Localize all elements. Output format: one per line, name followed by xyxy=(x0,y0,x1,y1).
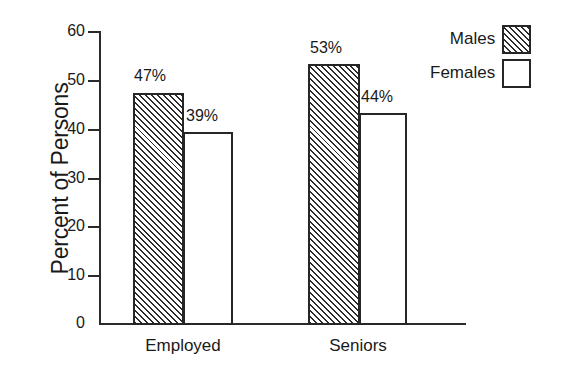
y-tick-30 xyxy=(88,178,99,180)
legend-item-males: Males xyxy=(430,22,531,56)
legend-swatch-males-hatched-icon xyxy=(502,25,531,54)
bar-value-seniors-males: 53% xyxy=(310,40,342,56)
legend-label-males: Males xyxy=(450,29,495,49)
bar-employed-females xyxy=(183,132,233,325)
y-tick-label-40: 40 xyxy=(45,121,85,137)
legend-item-females: Females xyxy=(430,56,531,90)
y-tick-40 xyxy=(88,129,99,131)
bar-seniors-males xyxy=(308,64,360,325)
y-tick-20 xyxy=(88,226,99,228)
y-tick-label-10: 10 xyxy=(45,267,85,283)
bar-value-seniors-females: 44% xyxy=(361,89,393,105)
bar-seniors-females xyxy=(359,113,407,325)
y-tick-label-50: 50 xyxy=(45,72,85,88)
y-tick-label-60: 60 xyxy=(45,23,85,39)
x-category-label-seniors: Seniors xyxy=(288,336,428,356)
legend-swatch-females-white-icon xyxy=(502,59,531,88)
bar-employed-males xyxy=(133,93,184,325)
y-tick-label-0: 0 xyxy=(45,315,85,331)
bar-chart: Percent of Persons 60 50 40 30 20 10 0 4… xyxy=(0,0,565,378)
x-category-label-employed: Employed xyxy=(113,336,253,356)
bar-value-employed-females: 39% xyxy=(186,108,218,124)
legend-label-females: Females xyxy=(430,63,495,83)
y-tick-10 xyxy=(88,275,99,277)
bar-value-employed-males: 47% xyxy=(134,68,166,84)
y-tick-label-30: 30 xyxy=(45,170,85,186)
y-tick-label-20: 20 xyxy=(45,218,85,234)
y-tick-60 xyxy=(88,31,99,33)
chart-legend: Males Females xyxy=(430,22,531,90)
y-axis-line xyxy=(99,31,101,325)
y-tick-50 xyxy=(88,80,99,82)
